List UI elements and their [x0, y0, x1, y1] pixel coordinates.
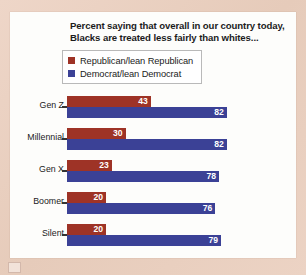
- legend-swatch-republican: [68, 57, 75, 64]
- bar-value-label: 20: [93, 225, 103, 234]
- bar-republican: 30: [67, 128, 126, 139]
- bar-group: Millennial3082: [10, 128, 296, 151]
- bar-value-label: 79: [208, 236, 218, 245]
- bar-republican: 20: [67, 192, 106, 203]
- bar-value-label: 82: [214, 140, 224, 149]
- bar-group: Gen X2378: [10, 160, 296, 183]
- bar-republican: 20: [67, 224, 106, 235]
- bar-value-label: 43: [138, 97, 148, 106]
- bar-group: Boomer2076: [10, 192, 296, 215]
- bar-value-label: 23: [99, 161, 109, 170]
- category-label: Gen Z: [0, 100, 64, 110]
- bar-republican: 23: [67, 160, 112, 171]
- bar-democrat: 82: [67, 139, 227, 150]
- bar-value-label: 76: [203, 204, 213, 213]
- bar-value-label: 78: [207, 172, 217, 181]
- legend-item-republican: Republican/lean Republican: [68, 54, 193, 67]
- chart-title-line-1: Percent saying that overall in our count…: [70, 20, 292, 32]
- category-label: Millennial: [0, 132, 64, 142]
- legend-label-democrat: Democrat/lean Democrat: [80, 69, 181, 79]
- legend-swatch-democrat: [68, 70, 75, 77]
- bar-democrat: 82: [67, 107, 227, 118]
- category-label: Gen X: [0, 164, 64, 174]
- bar-value-label: 82: [214, 108, 224, 117]
- bar-group: Gen Z4382: [10, 96, 296, 119]
- legend-label-republican: Republican/lean Republican: [80, 56, 193, 66]
- screenshot-scene: Percent saying that overall in our count…: [0, 0, 306, 275]
- bar-group: Silent2079: [10, 224, 296, 247]
- page-corner-artifact: [8, 262, 21, 273]
- chart-title-line-2: Blacks are treated less fairly than whit…: [70, 32, 292, 44]
- chart-title: Percent saying that overall in our count…: [70, 20, 292, 45]
- bar-democrat: 78: [67, 171, 219, 182]
- bar-value-label: 30: [113, 129, 123, 138]
- category-label: Silent: [0, 228, 64, 238]
- bar-value-label: 20: [93, 193, 103, 202]
- bar-democrat: 79: [67, 235, 221, 246]
- chart-card: Percent saying that overall in our count…: [10, 12, 296, 258]
- bar-republican: 43: [67, 96, 151, 107]
- chart-plot-area: Gen Z4382Millennial3082Gen X2378Boomer20…: [10, 96, 296, 256]
- chart-legend: Republican/lean Republican Democrat/lean…: [62, 50, 202, 84]
- bar-democrat: 76: [67, 203, 215, 214]
- category-label: Boomer: [0, 196, 64, 206]
- legend-item-democrat: Democrat/lean Democrat: [68, 67, 193, 80]
